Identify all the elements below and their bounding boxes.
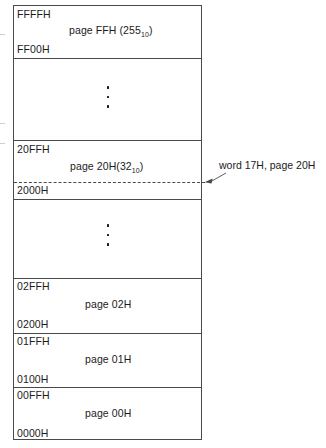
address-label-ffffh: FFFFH	[17, 9, 51, 20]
page-label-00-text: page 00H	[85, 407, 131, 419]
page-label-20: page 20H(3210)	[70, 161, 143, 173]
address-label-02ffh: 02FFH	[17, 281, 50, 292]
address-label-0200h: 0200H	[17, 319, 48, 330]
page-label-01: page 01H	[85, 354, 131, 365]
annotation-leader-line	[211, 173, 226, 182]
page-label-ff-subscript: 10	[141, 31, 149, 38]
address-label-ff00h: FF00H	[17, 44, 50, 55]
divider-below-page-ff	[13, 58, 202, 59]
ellipsis-dot	[107, 243, 110, 246]
ellipsis-lower	[105, 224, 111, 246]
page-label-00: page 00H	[85, 408, 131, 419]
page-label-02: page 02H	[85, 299, 131, 310]
address-label-0000h: 0000H	[17, 428, 48, 439]
address-label-2000h: 2000H	[17, 185, 48, 196]
scan-artifact	[0, 123, 5, 124]
ellipsis-dot	[107, 105, 110, 108]
address-label-01ffh: 01FFH	[17, 336, 50, 347]
address-label-00ffh: 00FFH	[17, 390, 50, 401]
page-label-02-text: page 02H	[85, 298, 131, 310]
ellipsis-dot	[107, 96, 110, 99]
page-label-20-subscript: 10	[132, 167, 140, 174]
page-label-ff: page FFH (25510)	[69, 25, 153, 37]
address-label-0100h: 0100H	[17, 374, 48, 385]
ellipsis-upper	[105, 86, 111, 108]
word-17h-dashed-marker	[14, 182, 205, 183]
divider-between-page-02-and-01	[13, 333, 202, 334]
annotation-arrowhead	[205, 178, 213, 183]
page-label-20-text: page 20H(32	[70, 160, 132, 172]
annotation-leader-arrow	[200, 168, 240, 188]
divider-between-page-01-and-00	[13, 387, 202, 388]
page-label-20-suffix: )	[140, 160, 144, 172]
page-label-ff-text: page FFH (255	[69, 24, 141, 36]
page-label-01-text: page 01H	[85, 353, 131, 365]
divider-below-page-20	[13, 199, 202, 200]
divider-above-page-02	[13, 278, 202, 279]
ellipsis-dot	[107, 86, 110, 89]
page-label-ff-suffix: )	[149, 24, 153, 36]
ellipsis-dot	[107, 234, 110, 237]
address-label-20ffh: 20FFH	[17, 144, 50, 155]
divider-above-page-20	[13, 140, 202, 141]
scan-artifact	[0, 143, 5, 144]
scan-artifact	[0, 34, 5, 35]
ellipsis-dot	[107, 224, 110, 227]
memory-page-map-diagram: FFFFH page FFH (25510) FF00H 20FFH page …	[0, 0, 326, 448]
